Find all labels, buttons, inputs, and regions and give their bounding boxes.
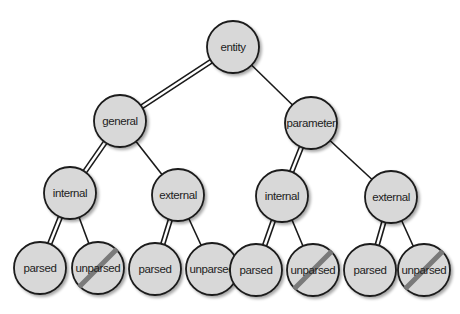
node-entity: entity: [207, 21, 259, 73]
node-label: parameter: [287, 117, 336, 129]
node-label: entity: [220, 41, 246, 53]
node-pe-parsed: parsed: [344, 244, 396, 296]
node-general-internal: internal: [44, 167, 96, 219]
node-general: general: [94, 95, 146, 147]
node-ge-parsed: parsed: [129, 243, 181, 295]
node-label: internal: [53, 187, 88, 199]
node-label: parsed: [24, 262, 57, 274]
node-gi-unparsed: unparsed: [72, 242, 124, 294]
node-label: internal: [265, 190, 300, 202]
node-general-external: external: [152, 169, 204, 221]
node-gi-parsed: parsed: [14, 242, 66, 294]
node-pe-unparsed: unparsed: [398, 244, 450, 296]
node-parameter-internal: internal: [256, 170, 308, 222]
tree-nodes: entitygeneralparameterinternalexternalin…: [14, 21, 450, 296]
node-label: unparsed: [76, 262, 121, 274]
tree-edges: [38, 45, 424, 270]
node-label: general: [102, 115, 138, 127]
node-parameter-external: external: [365, 171, 417, 223]
node-label: parsed: [139, 263, 172, 275]
node-label: parsed: [240, 264, 273, 276]
node-label: unparsed: [291, 264, 336, 276]
entity-tree-diagram: entitygeneralparameterinternalexternalin…: [0, 0, 460, 314]
node-label: unparsed: [402, 264, 447, 276]
node-label: unparsed: [190, 263, 235, 275]
node-label: external: [159, 189, 197, 201]
node-parameter: parameter: [285, 97, 337, 149]
node-label: external: [372, 191, 410, 203]
node-pi-parsed: parsed: [230, 244, 282, 296]
node-label: parsed: [354, 264, 387, 276]
node-pi-unparsed: unparsed: [287, 244, 339, 296]
